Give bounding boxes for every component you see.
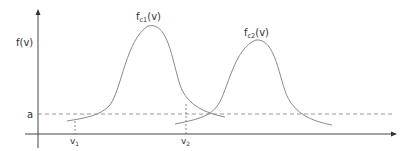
threshold-label: a	[27, 109, 33, 120]
curve-fc2	[175, 40, 332, 125]
v1-label: v1	[70, 136, 79, 147]
curve-fc2-label: fc2(v)	[244, 27, 269, 40]
curve-fc1	[67, 26, 225, 121]
v2-label: v2	[181, 136, 190, 147]
curve-fc1-label: fc1(v)	[136, 11, 161, 24]
y-axis-label: f(v)	[16, 37, 33, 48]
diagram-canvas: f(v) a fc1(v) fc2(v) v1 v2	[0, 0, 413, 151]
y-axis-arrow-icon	[36, 9, 41, 15]
x-axis-arrow-icon	[391, 132, 397, 137]
